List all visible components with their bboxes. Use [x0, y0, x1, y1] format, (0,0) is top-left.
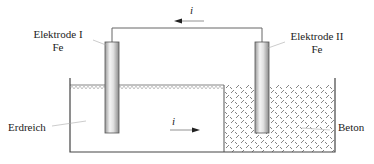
- leader-electrode-1: [93, 40, 106, 45]
- label-beton: Beton: [338, 121, 364, 134]
- electrode-2-name: Elektrode II: [282, 30, 352, 43]
- electrode-2-material: Fe: [282, 43, 352, 56]
- connecting-wire: [112, 28, 262, 42]
- current-arrow-top: [174, 19, 204, 24]
- label-electrode-1: Elektrode I Fe: [28, 28, 88, 54]
- diagram-canvas: [0, 0, 374, 164]
- soil-surface-hatch: [70, 85, 224, 90]
- current-arrow-bottom: [170, 128, 200, 133]
- leader-erdreich: [52, 121, 86, 126]
- concrete-region: [224, 85, 335, 152]
- label-electrode-2: Elektrode II Fe: [282, 30, 352, 56]
- current-symbol-bottom: i: [172, 115, 175, 128]
- electrode-1: [105, 42, 119, 133]
- electrode-1-name: Elektrode I: [28, 28, 88, 41]
- label-erdreich: Erdreich: [8, 121, 46, 134]
- current-symbol-top: i: [190, 4, 193, 17]
- electrode-2: [255, 42, 269, 133]
- electrode-1-material: Fe: [28, 41, 88, 54]
